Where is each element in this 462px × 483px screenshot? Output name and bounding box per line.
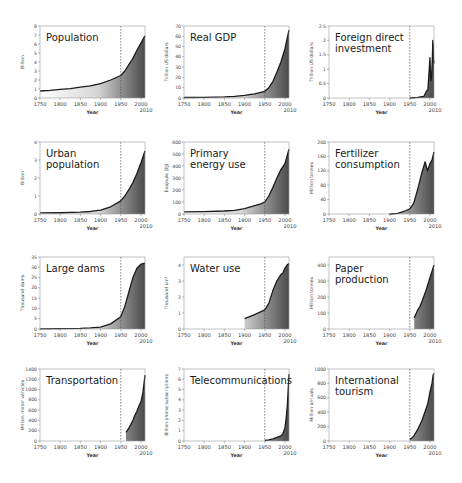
chart-title: Population bbox=[46, 32, 99, 43]
x-axis-label: Year bbox=[86, 226, 100, 231]
y-tick-label: 4 bbox=[34, 60, 37, 65]
x-tick-label: 1800 bbox=[54, 444, 67, 450]
y-tick-label: 200 bbox=[28, 428, 37, 433]
y-tick-label: 3 bbox=[34, 69, 37, 74]
x-tick-label: 1900 bbox=[383, 444, 396, 450]
y-tick-label: 0 bbox=[34, 212, 37, 217]
x-tick-label: 1800 bbox=[343, 101, 356, 107]
y-tick-label: 25 bbox=[31, 275, 37, 280]
x-axis-label: Year bbox=[375, 110, 389, 115]
x-tick-label: 1950 bbox=[403, 332, 416, 338]
x-tick-label: 1950 bbox=[114, 444, 127, 450]
y-tick-label: 7 bbox=[178, 367, 181, 372]
y-tick-label: 0 bbox=[323, 96, 326, 101]
x-axis-label: Year bbox=[86, 110, 100, 115]
x-tick-label-2010: 2010 bbox=[283, 107, 296, 113]
y-tick-label: 6 bbox=[178, 377, 181, 382]
chart-panel-large-dams: 0510152025303517501800185019001950200020… bbox=[20, 255, 153, 346]
y-tick-label: 1 bbox=[178, 428, 181, 433]
x-tick-label-2010: 2010 bbox=[428, 338, 441, 344]
x-tick-label: 1800 bbox=[198, 332, 211, 338]
x-axis-label: Year bbox=[230, 341, 244, 346]
x-tick-label: 1850 bbox=[74, 217, 87, 223]
y-axis-label: Billion bbox=[20, 55, 25, 69]
y-tick-label: 4 bbox=[34, 140, 37, 145]
y-tick-label: 2.5 bbox=[319, 24, 326, 29]
y-tick-label: 600 bbox=[317, 395, 326, 400]
x-tick-label: 1950 bbox=[258, 101, 271, 107]
y-tick-label: 1000 bbox=[314, 367, 326, 372]
y-tick-label: 20 bbox=[175, 75, 181, 80]
y-axis-label: Trillion US dollars bbox=[309, 42, 314, 83]
chart-panel-paper-production: 0100200300400175018001850190019502000201… bbox=[309, 257, 442, 346]
x-tick-label: 1800 bbox=[54, 101, 67, 107]
x-tick-label-2010: 2010 bbox=[139, 338, 152, 344]
x-tick-label: 1800 bbox=[343, 332, 356, 338]
x-tick-label: 1900 bbox=[238, 444, 251, 450]
x-tick-label: 1950 bbox=[114, 332, 127, 338]
chart-title: investment bbox=[335, 43, 392, 54]
y-axis-label: Thousand km³ bbox=[164, 276, 169, 310]
y-tick-label: 7 bbox=[34, 33, 37, 38]
x-tick-label: 1950 bbox=[114, 217, 127, 223]
chart-title: Large dams bbox=[46, 263, 105, 274]
y-axis-label: Million tonnes bbox=[309, 161, 314, 194]
x-tick-label: 1900 bbox=[94, 101, 107, 107]
y-tick-label: 0.5 bbox=[319, 81, 326, 86]
y-tick-label: 1000 bbox=[25, 387, 37, 392]
x-tick-label: 1850 bbox=[218, 332, 231, 338]
x-tick-label-2010: 2010 bbox=[139, 450, 152, 456]
y-tick-label: 20 bbox=[31, 285, 37, 290]
chart-title: Water use bbox=[190, 263, 240, 274]
y-tick-label: 8 bbox=[34, 24, 37, 29]
y-axis-label: Thousand dams bbox=[20, 274, 25, 312]
x-tick-label: 1750 bbox=[33, 332, 46, 338]
x-tick-label: 1750 bbox=[322, 101, 335, 107]
y-tick-label: 120 bbox=[317, 168, 326, 173]
y-tick-label: 160 bbox=[317, 154, 326, 159]
y-tick-label: 50 bbox=[175, 44, 181, 49]
x-tick-label-2010: 2010 bbox=[428, 107, 441, 113]
x-tick-label: 1900 bbox=[238, 332, 251, 338]
x-tick-label: 1800 bbox=[198, 217, 211, 223]
y-tick-label: 0 bbox=[34, 96, 37, 101]
x-tick-label: 1750 bbox=[177, 101, 190, 107]
y-axis-label: Trillion US dollars bbox=[164, 42, 169, 83]
x-tick-label: 1750 bbox=[322, 332, 335, 338]
chart-title: consumption bbox=[335, 159, 400, 170]
y-tick-label: 1 bbox=[34, 87, 37, 92]
y-tick-label: 5 bbox=[34, 316, 37, 321]
y-tick-label: 2 bbox=[323, 38, 326, 43]
x-tick-label: 1750 bbox=[33, 444, 46, 450]
chart-title: Urban bbox=[46, 148, 76, 159]
x-tick-label: 1800 bbox=[343, 217, 356, 223]
y-axis-label: Million tonnes bbox=[309, 276, 314, 309]
x-tick-label: 1750 bbox=[177, 332, 190, 338]
y-tick-label: 10 bbox=[31, 306, 37, 311]
x-tick-label: 1750 bbox=[177, 444, 190, 450]
x-tick-label: 1850 bbox=[218, 217, 231, 223]
y-tick-label: 0 bbox=[323, 212, 326, 217]
y-tick-label: 80 bbox=[320, 183, 326, 188]
chart-title: Foreign direct bbox=[335, 32, 404, 43]
y-tick-label: 800 bbox=[28, 397, 37, 402]
x-tick-label: 1850 bbox=[74, 332, 87, 338]
y-tick-label: 10 bbox=[175, 85, 181, 90]
x-tick-label: 1850 bbox=[74, 101, 87, 107]
y-tick-label: 200 bbox=[172, 188, 181, 193]
x-tick-label: 1900 bbox=[383, 332, 396, 338]
chart-panel-water-use: 012341750180018501900195020002010YearTho… bbox=[164, 257, 297, 346]
x-axis-label: Year bbox=[86, 453, 100, 458]
x-tick-label: 1900 bbox=[383, 101, 396, 107]
y-tick-label: 1 bbox=[178, 311, 181, 316]
x-tick-label-2010: 2010 bbox=[428, 223, 441, 229]
y-axis-label: Billion phone subscriptions bbox=[164, 374, 169, 436]
y-tick-label: 800 bbox=[317, 381, 326, 386]
x-axis-label: Year bbox=[375, 341, 389, 346]
chart-panel-urban-population: 012341750180018501900195020002010YearBil… bbox=[20, 140, 153, 231]
x-tick-label: 1800 bbox=[54, 332, 67, 338]
y-tick-label: 500 bbox=[172, 152, 181, 157]
y-tick-label: 400 bbox=[317, 410, 326, 415]
y-tick-label: 30 bbox=[175, 65, 181, 70]
y-tick-label: 1 bbox=[323, 67, 326, 72]
